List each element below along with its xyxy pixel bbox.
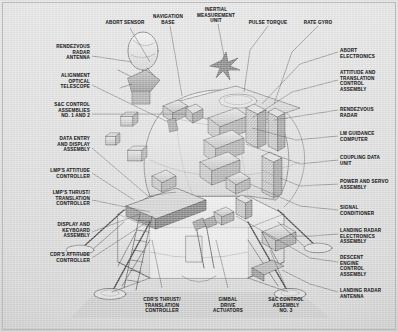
callout-label-rate-gyro: RATE GYRO xyxy=(304,20,333,26)
callout-label-navigation-base: NAVIGATION BASE xyxy=(153,14,183,25)
callout-label-signal-conditioner: SIGNAL CONDITIONER xyxy=(340,205,374,216)
callout-label-power-servo-assembly: POWER AND SERVO ASSEMBLY xyxy=(340,179,388,190)
callout-label-cdrs-thrust-translation-controller: CDR'S THRUST/ TRANSLATION CONTROLLER xyxy=(143,297,181,314)
callout-label-landing-radar-electronics-assembly: LANDING RADAR ELECTRONICS ASSEMBLY xyxy=(340,228,381,245)
callout-label-gimbal-drive-actuators: GIMBAL DRIVE ACTUATORS xyxy=(213,297,243,314)
callout-label-data-entry-display-assembly: DATA ENTRY AND DISPLAY ASSEMBLY xyxy=(57,136,90,153)
callout-label-pulse-torque: PULSE TORQUE xyxy=(249,20,287,26)
figure-canvas: ABORT SENSORNAVIGATION BASEINERTIAL MEAS… xyxy=(0,0,398,332)
abort-sensor-graphic xyxy=(210,52,240,80)
callout-label-abort-electronics: ABORT ELECTRONICS xyxy=(340,48,375,59)
callout-label-attitude-translation-control-assembly: ATTITUDE AND TRANSLATION CONTROL ASSEMBL… xyxy=(340,70,376,92)
callout-label-rendezvous-radar-antenna: RENDEZVOUS RADAR ANTENNA xyxy=(56,44,90,61)
callout-label-inertial-measurement-unit: INERTIAL MEASUREMENT UNIT xyxy=(197,7,235,24)
callout-label-cdrs-attitude-controller: CDR'S ATTITUDE CONTROLLER xyxy=(50,252,90,263)
callout-label-coupling-data-unit: COUPLING DATA UNIT xyxy=(340,155,380,166)
callout-label-descent-engine-control-assembly: DESCENT ENGINE CONTROL ASSEMBLY xyxy=(340,255,367,277)
callout-label-lm-guidance-computer: LM GUIDANCE COMPUTER xyxy=(340,131,374,142)
rendezvous-radar-antenna-graphic xyxy=(118,32,160,104)
callout-label-display-keyboard-assembly: DISPLAY AND KEYBOARD ASSEMBLY xyxy=(58,222,90,239)
callout-label-abort-sensor: ABORT SENSOR xyxy=(105,20,144,26)
callout-label-rendezvous-radar: RENDEZVOUS RADAR xyxy=(340,107,374,118)
callout-label-landing-radar-antenna: LANDING RADAR ANTENNA xyxy=(340,288,381,299)
callout-label-lmps-thrust-translation-controller: LMP'S THRUST/ TRANSLATION CONTROLLER xyxy=(53,190,90,207)
callout-label-lmps-attitude-controller: LMP'S ATTITUDE CONTROLLER xyxy=(50,168,90,179)
callout-label-alignment-optical-telescope: ALIGNMENT OPTICAL TELESCOPE xyxy=(61,73,90,90)
callout-label-sc-control-assembly-no3: S&C CONTROL ASSEMBLY NO. 3 xyxy=(268,297,304,314)
callout-label-sc-control-assemblies: S&C CONTROL ASSEMBLIES NO. 1 AND 2 xyxy=(54,102,90,119)
